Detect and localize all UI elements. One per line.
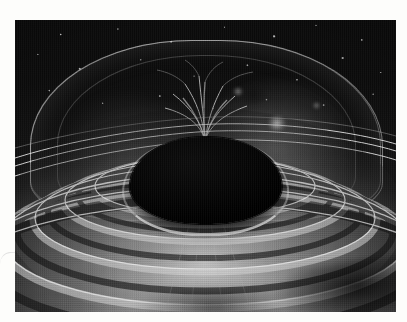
astronomical-illustration-photo: [15, 20, 396, 312]
page-canvas: grayscale halftone print: [0, 0, 407, 322]
